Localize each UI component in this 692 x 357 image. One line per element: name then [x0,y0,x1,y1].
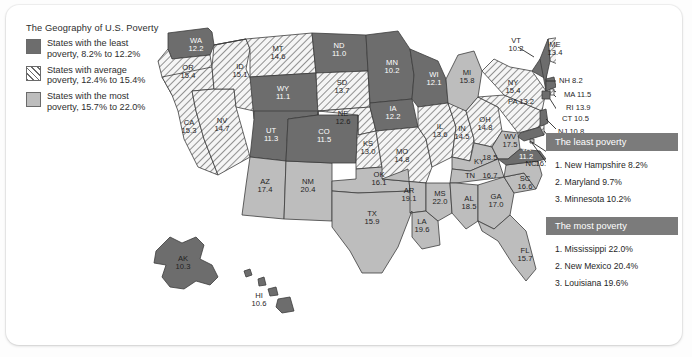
map-callout-RI: RI 13.9 [566,103,590,112]
state-AK [154,237,218,289]
list-item: 2. Maryland 9.7% [555,173,670,190]
poverty-ranking-panels: The least poverty 1. New Hampshire 8.2% … [546,133,678,297]
state-IA [370,99,418,131]
state-HI-island-2 [258,277,266,286]
map-callout-MA: MA 11.5 [564,90,591,99]
state-ND [312,33,368,73]
map-callout-CT: CT 10.5 [562,114,589,123]
panel-least-poverty: The least poverty 1. New Hampshire 8.2% … [546,133,678,213]
state-HI-island-1 [244,269,252,277]
list-item: 1. New Hampshire 8.2% [555,156,670,173]
state-AL [450,183,478,229]
state-WI [410,49,448,107]
state-CT [542,91,550,99]
map-callout-NH: NH 8.2 [559,76,583,85]
us-choropleth-map: WA12.2 OR15.4 CA15.3 NV14.7 ID15.1 MT14.… [126,15,556,335]
legend-least-line1: States with the least [47,38,128,48]
state-WA [168,28,214,59]
legend-average-line1: States with average [47,65,127,75]
panel-most-poverty-heading: The most poverty [546,217,678,235]
map-states [154,28,556,313]
state-AZ [242,157,286,219]
panel-least-poverty-list: 1. New Hampshire 8.2% 2. Maryland 9.7% 3… [546,151,678,213]
state-CO [286,115,358,163]
legend-swatch-average-icon [26,66,41,81]
list-item: 3. Louisiana 19.6% [555,274,670,291]
list-item: 2. New Mexico 20.4% [555,257,670,274]
state-RI [550,89,554,95]
state-DC [530,139,534,143]
state-HI-island-3 [268,287,278,296]
legend-swatch-most-icon [26,92,41,107]
state-NM [284,161,332,221]
state-MN [366,31,414,103]
state-HI-island-4 [276,297,294,313]
panel-most-poverty-list: 1. Mississippi 22.0% 2. New Mexico 20.4%… [546,235,678,297]
panel-most-poverty: The most poverty 1. Mississippi 22.0% 2.… [546,217,678,297]
list-item: 1. Mississippi 22.0% [555,240,670,257]
legend-most-line1: States with the most [47,91,129,101]
state-TX [332,191,412,273]
panel-least-poverty-heading: The least poverty [546,133,678,151]
map-card: The Geography of U.S. Poverty States wit… [6,5,682,345]
list-item: 3. Minnesota 10.2% [555,190,670,207]
legend-swatch-least-icon [26,39,41,54]
state-NJ [540,109,548,127]
